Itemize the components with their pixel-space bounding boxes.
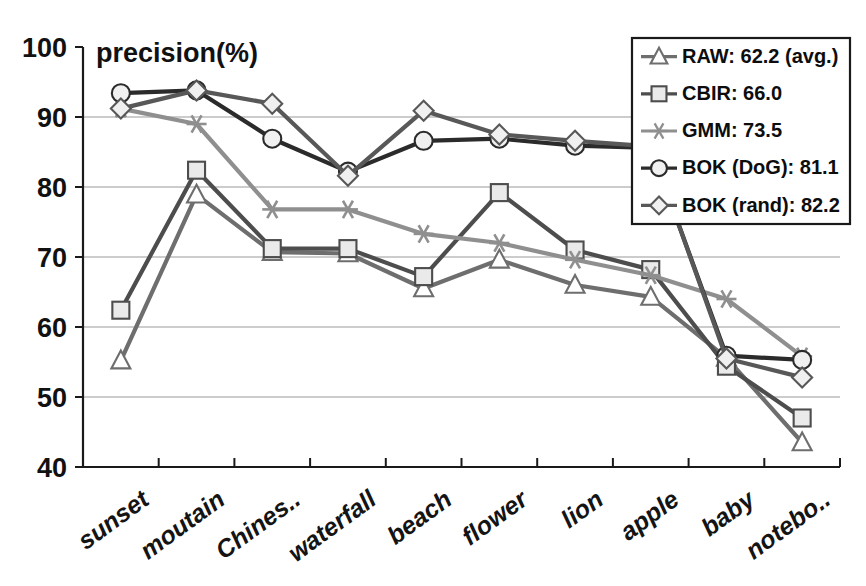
marker-cbir-4 [415,268,432,285]
x-tick-label-lion: lion [556,484,608,533]
precision-chart: 405060708090100 sunsetmoutainChines..wat… [0,0,866,586]
marker-cbir-2 [264,240,281,257]
y-tick-label-50: 50 [37,383,67,413]
legend-label-bok--rand-: BOK (rand): 82.2 [682,194,840,216]
marker-cbir-9 [794,410,811,427]
marker-gmm-4 [414,225,434,242]
y-tick-label-100: 100 [22,33,67,63]
y-tick-label-40: 40 [37,453,67,483]
y-tick-label-70: 70 [37,243,67,273]
x-tick-label-notebo: notebo.. [740,484,835,564]
y-axis-tick-labels: 405060708090100 [22,33,67,483]
marker-cbir-3 [339,240,356,257]
legend-label-raw: RAW: 62.2 (avg.) [682,45,838,67]
y-tick-label-60: 60 [37,313,67,343]
marker-bok--rand--0 [111,99,131,119]
marker-cbir-5 [491,184,508,201]
y-tick-label-90: 90 [37,103,67,133]
y-tick-label-80: 80 [37,173,67,203]
marker-bok--rand--9 [792,367,812,387]
chart-legend: RAW: 62.2 (avg.)CBIR: 66.0GMM: 73.5BOK (… [632,38,850,224]
x-tick-label-apple: apple [614,484,683,545]
legend-label-cbir: CBIR: 66.0 [682,82,782,104]
marker-bok--dog--4 [415,132,433,150]
chart-canvas: 405060708090100 sunsetmoutainChines..wat… [0,0,866,586]
legend-marker-cbir [652,86,667,101]
x-tick-label-beach: beach [382,484,457,549]
marker-bok--dog--2 [263,130,281,148]
legend-label-bok--dog-: BOK (DoG): 81.1 [682,156,839,178]
marker-gmm-3 [338,201,358,218]
marker-raw-5 [490,250,509,268]
y-axis-title: precision(%) [96,38,258,68]
marker-cbir-0 [112,302,129,319]
marker-cbir-1 [188,162,205,179]
x-axis-tick-labels: sunsetmoutainChines..waterfallbeachflowe… [72,483,835,566]
legend-item-cbir[interactable]: CBIR: 66.0 [641,82,782,104]
x-tick-label-moutain: moutain [134,484,229,564]
legend-label-gmm: GMM: 73.5 [682,119,782,141]
marker-cbir-6 [567,242,584,259]
x-tick-label-flower: flower [456,484,533,551]
legend-marker-bok--dog- [651,160,667,176]
marker-raw-0 [111,351,130,369]
